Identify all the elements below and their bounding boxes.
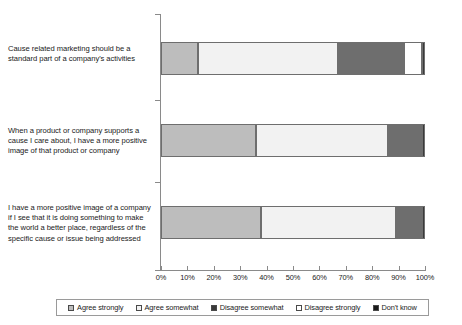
bar-segment: [161, 124, 256, 157]
legend-label: Disagree strongly: [305, 303, 361, 312]
bar-segment: [422, 42, 425, 75]
legend-label: Don't know: [382, 303, 417, 312]
value-axis-tick: [319, 266, 320, 271]
legend-item[interactable]: Disagree somewhat: [211, 303, 284, 312]
value-axis-tick: [161, 266, 162, 271]
bar-segment: [198, 42, 338, 75]
bar-segment: [261, 206, 396, 239]
legend-item[interactable]: Disagree strongly: [296, 303, 361, 312]
stacked-bar: [161, 124, 425, 157]
value-axis-tick: [372, 266, 373, 271]
value-axis-tick-label: 60%: [312, 273, 327, 282]
value-axis-tick-label: 100%: [416, 273, 435, 282]
bar-segment: [161, 42, 198, 75]
legend-swatch-icon: [211, 305, 217, 311]
bar-segment: [161, 206, 261, 239]
legend-label: Agree strongly: [77, 303, 123, 312]
value-axis-tick: [399, 266, 400, 271]
value-axis-tick: [425, 266, 426, 271]
value-axis-tick-label: 30%: [233, 273, 248, 282]
value-axis-tick: [267, 266, 268, 271]
chart-legend: Agree stronglyAgree somewhatDisagree som…: [56, 299, 429, 316]
bar-segment: [256, 124, 388, 157]
legend-label: Agree somewhat: [145, 303, 199, 312]
value-axis-tick: [214, 266, 215, 271]
legend-item[interactable]: Don't know: [373, 303, 417, 312]
bar-segment: [396, 206, 420, 239]
bar-segment: [422, 124, 425, 157]
legend-swatch-icon: [136, 305, 142, 311]
legend-item[interactable]: Agree strongly: [68, 303, 123, 312]
value-axis-tick: [187, 266, 188, 271]
value-axis-tick-label: 20%: [207, 273, 222, 282]
bar-segment: [422, 206, 425, 239]
bar-segment: [388, 124, 420, 157]
bar-segment: [338, 42, 404, 75]
category-label-2: I have a more positive image of a compan…: [8, 203, 154, 244]
value-axis-tick: [293, 266, 294, 271]
value-axis-tick-label: 70%: [339, 273, 354, 282]
value-axis-tick-label: 10%: [180, 273, 195, 282]
value-axis-tick-label: 80%: [365, 273, 380, 282]
category-label-0: Cause related marketing should be a stan…: [8, 44, 154, 64]
legend-swatch-icon: [68, 305, 74, 311]
legend-swatch-icon: [373, 305, 379, 311]
category-label-1: When a product or company supports a cau…: [8, 126, 154, 157]
value-axis-tick-label: 50%: [286, 273, 301, 282]
value-axis-tick: [346, 266, 347, 271]
legend-item[interactable]: Agree somewhat: [136, 303, 199, 312]
stacked-bar: [161, 42, 425, 75]
category-axis-tick: [155, 100, 161, 101]
value-axis-tick-label: 90%: [391, 273, 406, 282]
category-axis-tick: [155, 182, 161, 183]
legend-swatch-icon: [296, 305, 302, 311]
value-axis-tick-label: 0%: [156, 273, 166, 282]
bar-segment: [404, 42, 422, 75]
value-axis-tick-label: 40%: [259, 273, 274, 282]
stacked-bar-chart: 0%10%20%30%40%50%60%70%80%90%100% Cause …: [0, 0, 462, 288]
value-axis-tick: [240, 266, 241, 271]
stacked-bar: [161, 206, 425, 239]
legend-label: Disagree somewhat: [220, 303, 284, 312]
